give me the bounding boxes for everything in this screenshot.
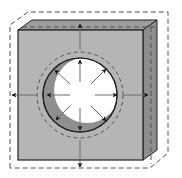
top-face <box>18 20 157 30</box>
side-face <box>143 20 157 160</box>
expansion-diagram <box>0 0 182 178</box>
diagram-canvas <box>0 0 182 178</box>
